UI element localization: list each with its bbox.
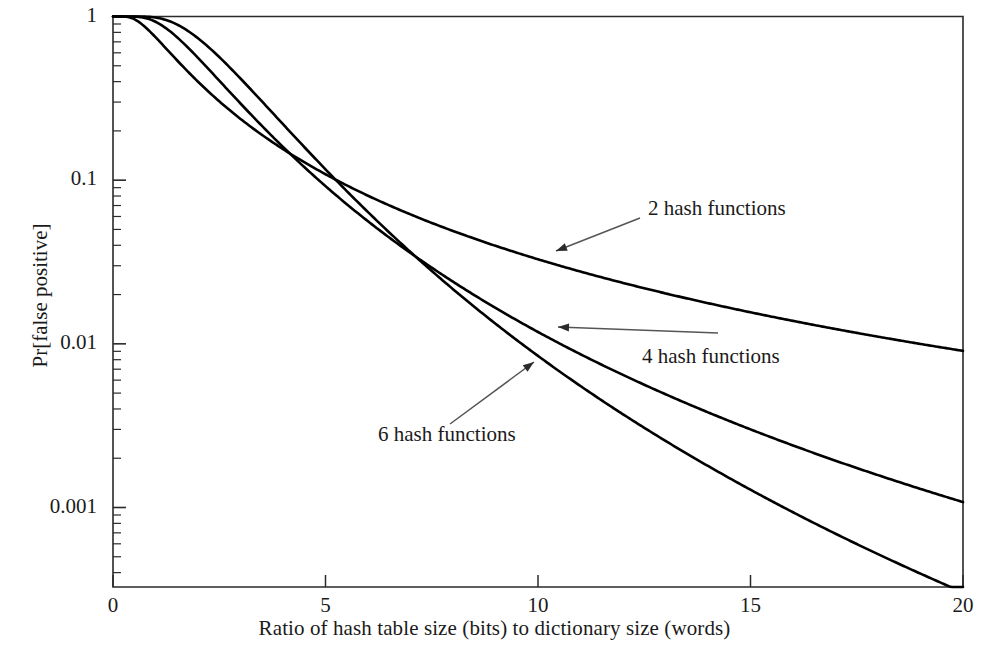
y-axis-title: Pr[false positive]: [28, 176, 53, 416]
annotation-arrow-head: [556, 243, 568, 251]
annotation-label-k2: 2 hash functions: [648, 196, 786, 221]
x-tick-label: 15: [711, 593, 791, 618]
curve-k2: [113, 17, 963, 351]
data-curves: [113, 17, 963, 588]
x-axis-title: Ratio of hash table size (bits) to dicti…: [0, 616, 989, 641]
chart-canvas: [0, 0, 989, 664]
annotation-label-k6: 6 hash functions: [378, 422, 516, 447]
x-tick-label: 0: [73, 593, 153, 618]
annotation-arrow-line: [450, 362, 534, 424]
annotation-arrow-line: [556, 218, 640, 251]
annotation-arrow-head: [558, 323, 569, 331]
x-tick-label: 20: [923, 593, 989, 618]
bloom-filter-false-positive-chart: 10.10.010.001 05101520 2 hash functions4…: [0, 0, 989, 664]
annotation-arrow-head: [523, 362, 534, 372]
annotation-arrow-line: [558, 327, 718, 333]
x-tick-label: 5: [286, 593, 366, 618]
x-tick-label: 10: [498, 593, 578, 618]
y-tick-label: 0.001: [0, 494, 97, 519]
annotation-label-k4: 4 hash functions: [642, 344, 780, 369]
y-tick-label: 1: [0, 3, 97, 28]
